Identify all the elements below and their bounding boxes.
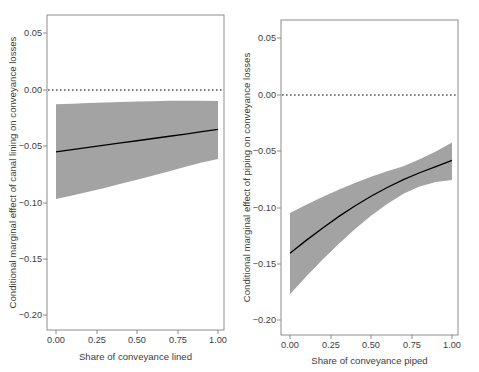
x-tick-label: 1.00 [443, 340, 461, 350]
x-tick-label: 0.50 [362, 340, 380, 350]
confidence-band [290, 142, 452, 294]
x-tick-label: 0.00 [281, 340, 299, 350]
x-tick-label: 0.25 [322, 340, 340, 350]
y-tick-label: −0.10 [253, 203, 276, 213]
x-tick-label: 0.75 [403, 340, 421, 350]
y-axis-title: Conditional marginal effect of piping on… [241, 53, 252, 303]
chart-panel-right: 0.050.00−0.05−0.10−0.15−0.200.000.250.50… [0, 0, 479, 372]
x-axis-title: Share of conveyance piped [311, 355, 427, 366]
y-tick-label: −0.20 [253, 315, 276, 325]
figure-container: 0.050.00−0.05−0.10−0.15−0.200.000.250.50… [0, 0, 479, 372]
y-tick-label: 0.05 [258, 33, 276, 43]
y-tick-label: −0.05 [253, 146, 276, 156]
y-tick-label: −0.15 [253, 259, 276, 269]
y-tick-label: 0.00 [258, 90, 276, 100]
